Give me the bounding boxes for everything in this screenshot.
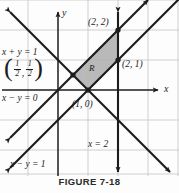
- fraction-half-first: 1 2: [13, 60, 22, 79]
- fraction-half-second: 1 2: [25, 60, 34, 79]
- figure-container: y x x + y = 1 x − y = 0 x − y = 1 x = 2 …: [0, 0, 179, 193]
- region-label-R: R: [89, 64, 95, 73]
- fraction-denominator: 2: [15, 70, 19, 78]
- fraction-numerator: 1: [28, 60, 32, 68]
- label-line-x-minus-y-0: x − y = 0: [2, 94, 38, 104]
- label-point-half-half: ( 1 2 , 1 2 ): [4, 59, 43, 79]
- paren-open: (: [4, 58, 13, 78]
- fraction-denominator: 2: [28, 70, 32, 78]
- label-line-x-equals-2: x = 2: [88, 140, 108, 150]
- label-point-2-2: (2, 2): [88, 18, 109, 28]
- vertex-point-1-0: [85, 87, 90, 92]
- fraction-numerator: 1: [15, 60, 19, 68]
- vertex-point-2-1: [115, 57, 120, 62]
- label-line-x-minus-y-1: x − y = 1: [10, 160, 46, 170]
- y-axis-label: y: [62, 8, 66, 18]
- figure-caption: FIGURE 7-18: [0, 176, 179, 187]
- label-point-2-1: (2, 1): [122, 60, 143, 70]
- x-axis-label: x: [164, 84, 168, 94]
- paren-close: ): [34, 58, 43, 78]
- label-point-1-0: (1, 0): [72, 100, 93, 110]
- vertex-point-half-half: [70, 72, 75, 77]
- vertex-point-2-2: [115, 27, 120, 32]
